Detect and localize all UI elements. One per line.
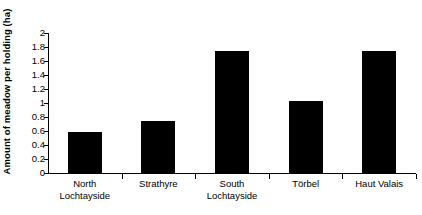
bar [141, 121, 175, 173]
x-category-label-line1: North [48, 178, 122, 190]
x-category-label: Strathyre [122, 178, 196, 190]
y-tick-mark [44, 89, 48, 90]
y-tick-mark [44, 47, 48, 48]
x-category-label-line1: Törbel [269, 178, 343, 190]
x-category-label-line2: Lochtayside [195, 190, 269, 202]
y-tick-mark [44, 103, 48, 104]
y-tick-label: 0.8 [16, 112, 45, 122]
x-category-label: Haut Valais [342, 178, 416, 190]
y-tick-mark [44, 145, 48, 146]
bar [68, 132, 102, 173]
y-axis-tick-labels: 00.20.40.60.811.21.41.61.82 [16, 27, 45, 181]
x-category-label-line1: South [195, 178, 269, 190]
x-category-label: SouthLochtayside [195, 178, 269, 202]
x-category-label-line1: Haut Valais [342, 178, 416, 190]
y-tick-mark [44, 159, 48, 160]
x-axis-line [48, 173, 416, 174]
x-axis-category-labels: NorthLochtaysideStrathyreSouthLochtaysid… [48, 178, 416, 215]
x-category-label: NorthLochtayside [48, 178, 122, 202]
plot-area [48, 33, 416, 174]
y-axis-line [48, 33, 49, 174]
y-tick-mark [44, 75, 48, 76]
y-tick-label: 1.4 [16, 70, 45, 80]
y-tick-label: 0.2 [16, 154, 45, 164]
y-tick-label: 0.6 [16, 126, 45, 136]
bar-chart: Amount of meadow per holding (ha) 00.20.… [0, 0, 422, 215]
y-tick-label: 1.6 [16, 56, 45, 66]
bar [289, 101, 323, 173]
y-axis-title: Amount of meadow per holding (ha) [0, 0, 14, 182]
y-tick-mark [44, 117, 48, 118]
y-tick-mark [44, 173, 48, 174]
y-tick-mark [44, 131, 48, 132]
x-category-label-line2: Lochtayside [48, 190, 122, 202]
y-tick-mark [44, 61, 48, 62]
y-axis-title-text: Amount of meadow per holding (ha) [2, 8, 13, 174]
y-tick-label: 2 [16, 28, 45, 38]
x-category-label-line1: Strathyre [122, 178, 196, 190]
y-tick-label: 0 [16, 168, 45, 178]
y-tick-label: 0.4 [16, 140, 45, 150]
y-tick-label: 1 [16, 98, 45, 108]
bar [362, 51, 396, 174]
x-category-label: Törbel [269, 178, 343, 190]
x-tick-mark [416, 174, 417, 179]
y-tick-label: 1.2 [16, 84, 45, 94]
bar [215, 51, 249, 173]
y-tick-label: 1.8 [16, 42, 45, 52]
y-tick-mark [44, 33, 48, 34]
